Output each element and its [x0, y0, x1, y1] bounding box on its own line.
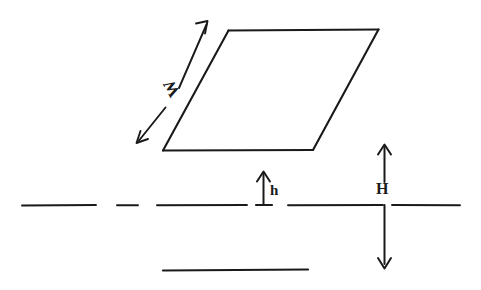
- w-arrow-upper-head: [196, 21, 208, 34]
- w-arrow-lower-shaft: [139, 108, 166, 141]
- figure-root: W h H: [0, 0, 481, 290]
- label-h-big: H: [376, 181, 388, 197]
- baseline-seg-1: [22, 205, 96, 206]
- label-h-small: h: [270, 183, 278, 198]
- big-h-dimension-arrow: [378, 145, 391, 269]
- slab-parallelogram: [163, 30, 379, 151]
- slab-top-edge: [229, 30, 379, 31]
- diagram-canvas: [0, 0, 481, 290]
- lower-reference-line: [163, 270, 308, 271]
- slab-bottom-edge: [163, 150, 313, 151]
- reference-baseline: [22, 205, 460, 206]
- slab-right-edge: [313, 30, 379, 151]
